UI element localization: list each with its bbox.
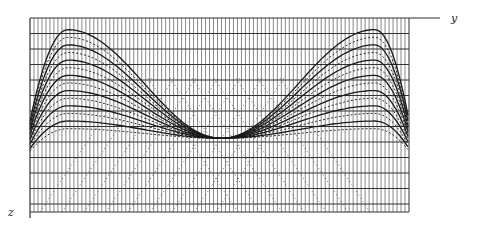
ray-line bbox=[150, 78, 240, 212]
wavefront-curve bbox=[30, 121, 408, 149]
wavefront-curve bbox=[30, 129, 408, 151]
wavefront-curve bbox=[30, 98, 408, 142]
ray-line bbox=[194, 78, 284, 212]
wavefront-curve bbox=[30, 37, 408, 138]
wavefront-curves bbox=[30, 30, 408, 152]
vertical-grid-lines bbox=[34, 18, 405, 212]
ray-line bbox=[170, 78, 260, 212]
wavefront-diagram: y z bbox=[0, 0, 480, 230]
wavefront-curve bbox=[30, 45, 408, 138]
y-axis-label: y bbox=[450, 12, 458, 25]
z-axis-label: z bbox=[7, 206, 14, 219]
